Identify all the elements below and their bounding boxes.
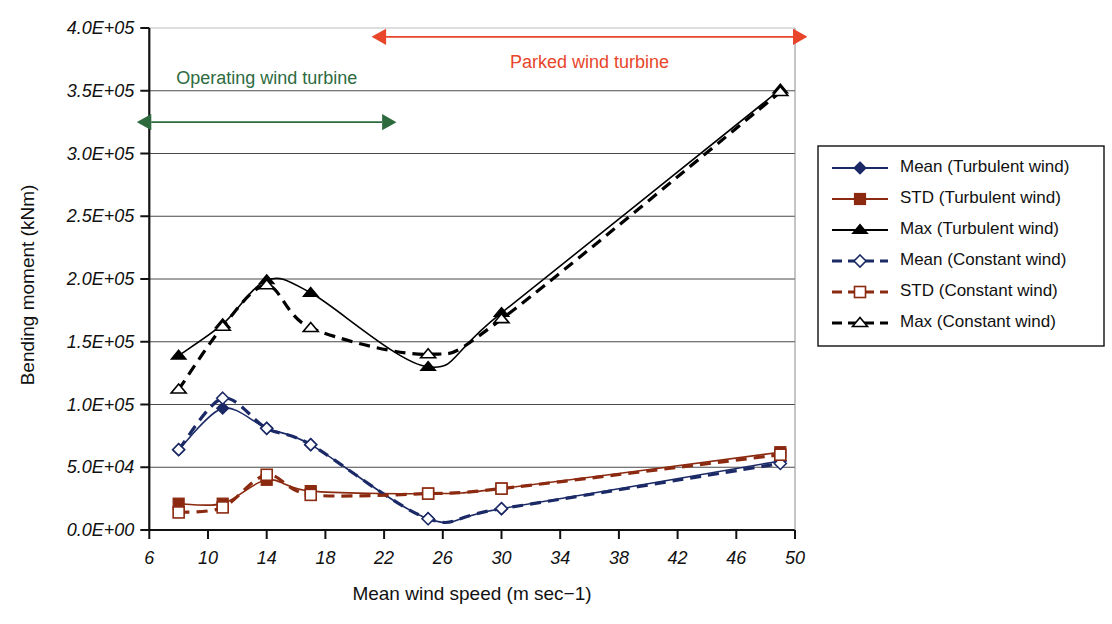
data-series bbox=[171, 84, 788, 525]
data-point-marker bbox=[855, 194, 866, 205]
y-tick-label: 0.0E+00 bbox=[67, 520, 135, 540]
y-tick-label: 4.0E+05 bbox=[67, 18, 136, 38]
chart-figure: 0.0E+005.0E+041.0E+051.5E+052.0E+052.5E+… bbox=[0, 0, 1112, 624]
chart-canvas: 0.0E+005.0E+041.0E+051.5E+052.0E+052.5E+… bbox=[0, 0, 1112, 624]
series-line bbox=[179, 398, 781, 523]
y-axis-ticks: 0.0E+005.0E+041.0E+051.5E+052.0E+052.5E+… bbox=[66, 18, 150, 540]
data-point-marker bbox=[855, 287, 866, 298]
x-tick-label: 30 bbox=[491, 548, 511, 568]
x-tick-label: 34 bbox=[550, 548, 570, 568]
gridlines bbox=[149, 28, 795, 467]
series-3 bbox=[173, 392, 787, 524]
legend-label: Max (Turbulent wind) bbox=[900, 219, 1059, 238]
legend: Mean (Turbulent wind)STD (Turbulent wind… bbox=[818, 146, 1104, 346]
data-point-marker bbox=[496, 503, 508, 515]
data-point-marker bbox=[775, 449, 786, 460]
x-tick-label: 50 bbox=[785, 548, 805, 568]
x-tick-label: 14 bbox=[257, 548, 277, 568]
y-axis-title: Bending moment (kNm) bbox=[17, 185, 38, 386]
annotations: Operating wind turbineParked wind turbin… bbox=[151, 37, 793, 122]
data-point-marker bbox=[173, 507, 184, 518]
x-tick-label: 22 bbox=[373, 548, 394, 568]
data-point-marker bbox=[422, 513, 434, 525]
data-point-marker bbox=[303, 322, 318, 331]
legend-label: STD (Constant wind) bbox=[900, 281, 1058, 300]
data-point-marker bbox=[423, 488, 434, 499]
y-tick-label: 1.5E+05 bbox=[67, 332, 136, 352]
y-tick-label: 2.5E+05 bbox=[66, 206, 136, 226]
legend-label: Mean (Turbulent wind) bbox=[900, 157, 1069, 176]
y-tick-label: 3.0E+05 bbox=[67, 144, 136, 164]
data-point-marker bbox=[303, 287, 318, 296]
y-tick-label: 2.0E+05 bbox=[66, 269, 136, 289]
y-tick-label: 1.0E+05 bbox=[67, 395, 136, 415]
x-tick-label: 26 bbox=[432, 548, 454, 568]
x-tick-label: 42 bbox=[668, 548, 688, 568]
x-tick-label: 10 bbox=[198, 548, 218, 568]
data-point-marker bbox=[305, 439, 317, 451]
legend-label: Max (Constant wind) bbox=[900, 312, 1056, 331]
x-tick-label: 18 bbox=[315, 548, 335, 568]
y-tick-label: 5.0E+04 bbox=[67, 457, 135, 477]
y-tick-label: 3.5E+05 bbox=[67, 81, 136, 101]
series-line bbox=[179, 92, 781, 389]
series-line bbox=[179, 89, 781, 367]
x-tick-label: 38 bbox=[609, 548, 629, 568]
data-point-marker bbox=[171, 384, 186, 393]
x-axis-title: Mean wind speed (m sec−1) bbox=[352, 583, 591, 604]
data-point-marker bbox=[217, 392, 229, 404]
legend-label: STD (Turbulent wind) bbox=[900, 188, 1061, 207]
data-point-marker bbox=[496, 483, 507, 494]
series-2 bbox=[171, 84, 788, 370]
legend-label: Mean (Constant wind) bbox=[900, 250, 1066, 269]
x-tick-label: 6 bbox=[144, 548, 155, 568]
series-5 bbox=[171, 87, 788, 393]
data-point-marker bbox=[261, 469, 272, 480]
annotation-label-parked: Parked wind turbine bbox=[510, 52, 669, 72]
x-axis-ticks: 61014182226303438424650 bbox=[144, 530, 805, 568]
annotation-label-operating: Operating wind turbine bbox=[176, 68, 357, 88]
x-tick-label: 46 bbox=[726, 548, 747, 568]
data-point-marker bbox=[305, 489, 316, 500]
data-point-marker bbox=[217, 502, 228, 513]
